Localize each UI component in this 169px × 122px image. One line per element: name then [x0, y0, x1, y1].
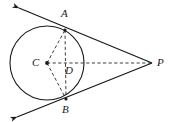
dashed-construction-lines: [47, 30, 152, 99]
vertex-label-d: D: [65, 65, 73, 76]
vertex-label-c: C: [32, 57, 39, 68]
tangent-dot-A: [63, 28, 66, 31]
radius-CB-line: [47, 63, 66, 99]
vertex-label-a: A: [61, 8, 68, 19]
radius-CA-line: [47, 30, 65, 63]
tangent-line-upper: [19, 8, 152, 63]
center-dot-C: [45, 61, 49, 65]
geometry-canvas: [0, 0, 169, 122]
vertex-label-p: P: [157, 57, 164, 68]
tangent-line-lower: [17, 63, 152, 117]
tangent-dot-B: [64, 97, 67, 100]
geometry-figure: A B C D P: [0, 0, 169, 122]
vertex-label-b: B: [62, 104, 69, 115]
